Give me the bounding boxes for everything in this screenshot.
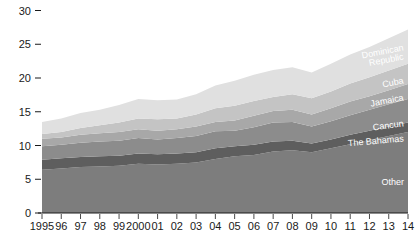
- x-tick-label: 08: [286, 220, 298, 232]
- series-label-other: Other: [381, 177, 404, 187]
- y-axis-ticks: 051015202530: [19, 5, 41, 220]
- x-tick-label: 97: [74, 220, 86, 232]
- x-tick-label: 07: [267, 220, 279, 232]
- x-tick-label: 04: [209, 220, 221, 232]
- x-tick-label: 14: [402, 220, 414, 232]
- x-tick-label: 99: [113, 220, 125, 232]
- x-tick-label: 11: [344, 220, 355, 232]
- y-tick-label: 20: [19, 72, 31, 84]
- x-tick-label: 98: [94, 220, 106, 232]
- x-tick-label: 09: [306, 220, 318, 232]
- x-tick-label: 12: [363, 220, 375, 232]
- area-series-group: [42, 29, 408, 213]
- x-tick-label: 10: [325, 220, 337, 232]
- x-tick-label: 01: [151, 220, 163, 232]
- x-tick-label: 02: [171, 220, 183, 232]
- x-tick-label: 06: [248, 220, 260, 232]
- x-tick-label: 03: [190, 220, 202, 232]
- chart-svg: 051015202530 199596979899200001020304050…: [0, 0, 420, 242]
- y-tick-label: 10: [19, 140, 31, 152]
- y-tick-label: 15: [19, 106, 31, 118]
- x-tick-label: 13: [383, 220, 395, 232]
- x-tick-label: 96: [55, 220, 67, 232]
- x-tick-label: 2000: [126, 220, 150, 232]
- x-tick-label: 05: [229, 220, 241, 232]
- y-tick-label: 5: [25, 173, 31, 185]
- y-tick-label: 0: [25, 207, 31, 219]
- stacked-area-chart: 051015202530 199596979899200001020304050…: [0, 0, 420, 242]
- y-tick-label: 25: [19, 38, 31, 50]
- x-tick-label: 1995: [30, 220, 54, 232]
- x-axis-ticks: 1995969798992000010203040506070809101112…: [30, 214, 414, 232]
- y-tick-label: 30: [19, 5, 31, 17]
